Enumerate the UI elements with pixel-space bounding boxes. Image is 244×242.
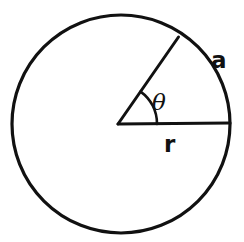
radius-label: r xyxy=(164,133,175,156)
arc-length-label: a xyxy=(211,49,227,72)
radius-line-horizontal xyxy=(118,123,230,124)
circle-diagram-canvas xyxy=(0,0,244,242)
angle-theta-label: θ xyxy=(152,91,166,114)
circle-diagram-figure: a θ r xyxy=(0,0,244,242)
radius-line-diagonal xyxy=(118,37,179,124)
